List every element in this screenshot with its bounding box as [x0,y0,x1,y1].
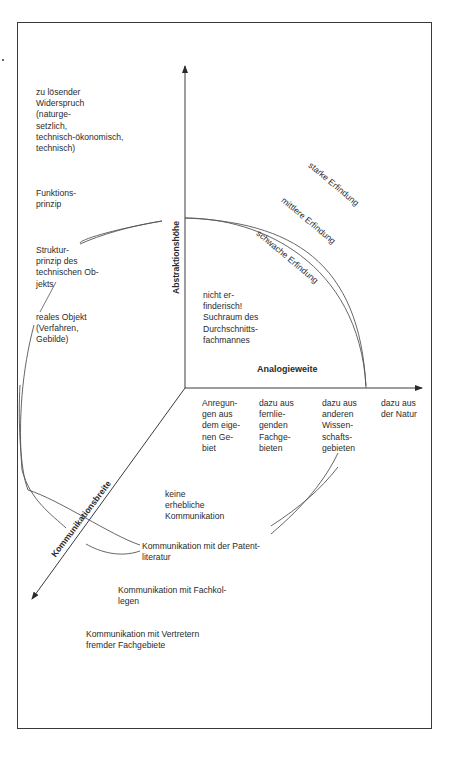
communication-level-fachkollegen: Kommunikation mit Fachkol- legen [118,585,226,607]
diagonal-axis [32,388,185,599]
communication-level-fremde-fachgebiete: Kommunikation mit Vertretern fremder Fac… [86,629,199,651]
abstraction-level-strukturprinzip: Struktur- prinzip des technischen Ob- je… [36,245,99,290]
axis-label-abstraktionshoehe: Abstraktionshöhe [171,221,181,294]
center-region-label: nicht er- finderisch! Suchraum des Durch… [203,290,258,346]
analogy-level-eigenes-gebiet: Anregun- gen aus dem eige- nen Ge- biet [202,398,240,454]
communication-level-patentliteratur: Kommunikation mit der Patent- literatur [142,541,260,563]
abstraction-level-reales-objekt: reales Objekt (Verfahren, Gebilde) [36,312,87,346]
analogy-level-natur: dazu aus der Natur [381,398,417,420]
communication-level-keine: keine erhebliche Kommunikation [165,489,224,523]
analogy-level-wissenschaftsgebiete: dazu aus anderen Wissen- schafts- gebiet… [322,398,357,454]
analogy-level-fernliegende-fachgebiete: dazu aus fernlie- genden Fachge- bieten [259,398,294,454]
axis-label-analogieweite: Analogieweite [257,364,318,375]
abstraction-level-funktionsprinzip: Funktions- prinzip [36,188,76,210]
abstraction-level-widerspruch: zu lösender Widerspruch (naturge- setzli… [36,87,123,154]
